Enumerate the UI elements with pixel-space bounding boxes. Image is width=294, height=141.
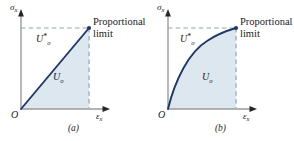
complementary-energy-label-a: U*o xyxy=(36,33,50,46)
proportional-limit-label-a: Proportionallimit xyxy=(93,16,146,40)
panel-caption-a: (a) xyxy=(0,124,147,134)
proportional-limit-point-a xyxy=(87,26,91,30)
y-axis-arrow-a xyxy=(18,9,24,17)
y-axis-label-a: σx xyxy=(10,3,17,14)
panel-linearly-elastic: σx εx O U*o Uo Proportionallimit (a) xyxy=(0,0,147,141)
x-axis-label-b: εx xyxy=(243,112,249,123)
proportional-limit-label-b: Proportionallimit xyxy=(240,16,293,40)
strain-energy-area-b xyxy=(168,28,236,109)
proportional-limit-point-b xyxy=(234,26,238,30)
y-axis-label-b: σx xyxy=(157,3,164,14)
origin-label-b: O xyxy=(158,110,165,120)
strain-energy-density-figure: σx εx O U*o Uo Proportionallimit (a) σx xyxy=(0,0,294,141)
x-axis-arrow-a xyxy=(103,106,111,112)
panel-caption-b: (b) xyxy=(147,124,294,134)
panel-nonlinearly-elastic: σx εx O U*o Uo Proportionallimit (b) xyxy=(147,0,294,141)
y-axis-arrow-b xyxy=(165,9,171,17)
x-axis-label-a: εx xyxy=(96,112,102,123)
x-axis-arrow-b xyxy=(250,106,258,112)
complementary-energy-label-b: U*o xyxy=(180,33,194,46)
strain-energy-label-a: Uo xyxy=(53,72,63,84)
strain-energy-label-b: Uo xyxy=(202,72,212,84)
origin-label-a: O xyxy=(11,110,18,120)
